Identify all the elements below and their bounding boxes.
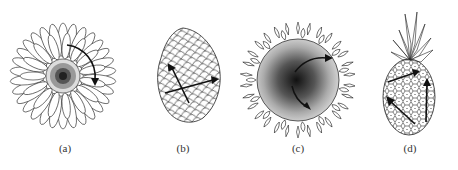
panel-b-pinecone: (b)	[125, 0, 235, 170]
panel-label-d: (d)	[390, 142, 430, 154]
panel-c-sunflower: (c)	[235, 0, 355, 170]
panel-label-b: (b)	[163, 142, 203, 154]
phyllotaxis-figure: (a) (b)	[0, 0, 458, 170]
panel-a-daisy: (a)	[0, 0, 125, 170]
daisy-illustration	[0, 0, 125, 140]
pinecone-illustration	[125, 0, 235, 140]
panel-d-pineapple: (d)	[355, 0, 458, 170]
sunflower-illustration	[235, 0, 355, 140]
panel-label-c: (c)	[278, 142, 318, 154]
pineapple-illustration	[355, 0, 458, 140]
panel-label-a: (a)	[45, 142, 85, 154]
